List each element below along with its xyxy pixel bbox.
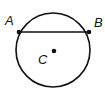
point-b-dot <box>87 30 92 35</box>
point-a-dot <box>17 30 22 35</box>
label-a: A <box>4 13 14 28</box>
circle-diagram: A B C <box>0 0 105 95</box>
label-b: B <box>94 15 103 30</box>
label-c: C <box>38 52 48 67</box>
center-c-dot <box>52 49 57 54</box>
